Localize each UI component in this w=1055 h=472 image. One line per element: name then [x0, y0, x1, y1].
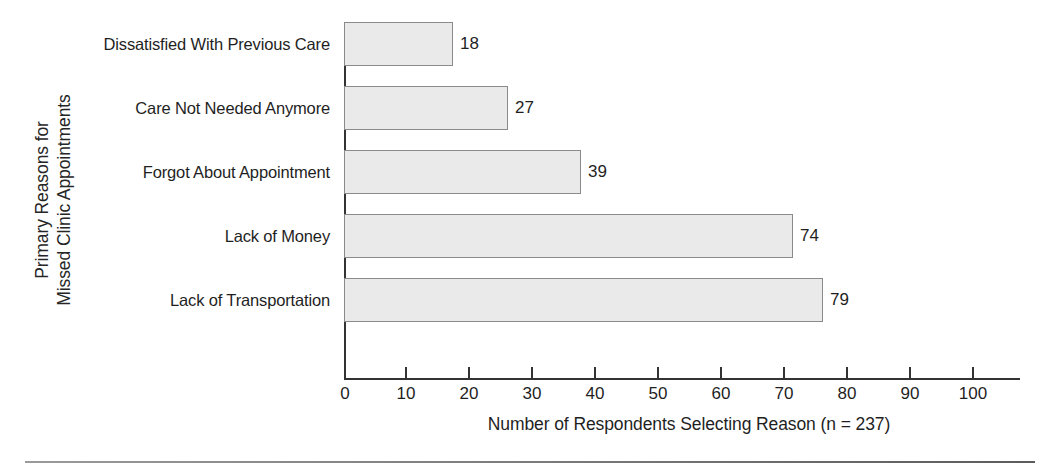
- x-tick-label: 50: [649, 384, 668, 404]
- x-axis-tick: [594, 367, 596, 378]
- category-label-group: Dissatisfied With Previous Care Care Not…: [80, 22, 338, 378]
- category-label: Lack of Money: [225, 214, 330, 258]
- x-axis-tick: [405, 367, 407, 378]
- x-tick-label: 10: [397, 384, 416, 404]
- x-tick-label: 100: [959, 384, 987, 404]
- plot-area: 18 27 39 74 79: [344, 22, 1019, 378]
- y-axis-line: [344, 22, 346, 378]
- x-axis-title: Number of Respondents Selecting Reason (…: [344, 414, 1034, 435]
- category-label: Forgot About Appointment: [143, 150, 330, 194]
- bar: [344, 214, 793, 258]
- bar: [344, 150, 581, 194]
- x-axis-line: [344, 378, 1020, 380]
- category-label: Lack of Transportation: [170, 278, 330, 322]
- x-axis-tick: [846, 367, 848, 378]
- y-axis-title-line-1: Primary Reasons for: [31, 121, 53, 279]
- x-axis-tick: [909, 367, 911, 378]
- x-tick-label: 0: [340, 384, 349, 404]
- bar-value-label: 27: [508, 86, 534, 130]
- chart-figure: Primary Reasons for Missed Clinic Appoin…: [0, 0, 1055, 472]
- x-axis-tick: [972, 367, 974, 378]
- x-axis-tick: [783, 367, 785, 378]
- x-axis-tick: [720, 367, 722, 378]
- category-label: Dissatisfied With Previous Care: [104, 22, 330, 66]
- x-axis-tick: [468, 367, 470, 378]
- bar: [344, 86, 508, 130]
- x-tick-label: 30: [523, 384, 542, 404]
- x-tick-label: 90: [901, 384, 920, 404]
- bottom-divider: [25, 461, 1035, 463]
- bar-value-label: 74: [793, 214, 819, 258]
- x-tick-label: 40: [586, 384, 605, 404]
- bar-value-label: 39: [581, 150, 607, 194]
- bar: [344, 278, 823, 322]
- x-axis-tick: [531, 367, 533, 378]
- bar-value-label: 79: [823, 278, 849, 322]
- x-axis-tick: [657, 367, 659, 378]
- x-tick-label: 70: [775, 384, 794, 404]
- x-tick-label: 60: [712, 384, 731, 404]
- x-axis-tick: [344, 367, 346, 378]
- x-tick-label: 80: [838, 384, 857, 404]
- y-axis-title-line-2: Missed Clinic Appointments: [53, 94, 75, 305]
- y-axis-title: Primary Reasons for Missed Clinic Appoin…: [27, 0, 79, 400]
- bar-value-label: 18: [453, 22, 479, 66]
- category-label: Care Not Needed Anymore: [135, 86, 330, 130]
- x-tick-label: 20: [460, 384, 479, 404]
- bar: [344, 22, 453, 66]
